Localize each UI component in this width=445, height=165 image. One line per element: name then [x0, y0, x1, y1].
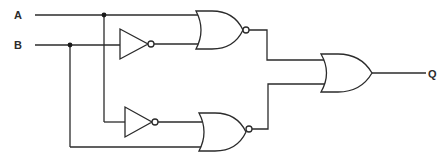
wire-b: [35, 43, 202, 147]
output-label-q: Q: [428, 68, 437, 80]
not-gate-2: [125, 107, 202, 137]
wire-a: [35, 13, 200, 122]
logic-circuit-diagram: A B Q: [0, 0, 445, 165]
input-label-a: A: [14, 9, 22, 21]
input-label-b: B: [14, 39, 22, 51]
junction-b: [68, 43, 73, 48]
or-gate: [321, 54, 426, 92]
not-gate-1: [120, 29, 200, 59]
nor-gate-1: [196, 11, 325, 60]
junction-a: [102, 13, 107, 18]
nor-gate-2: [199, 84, 325, 151]
